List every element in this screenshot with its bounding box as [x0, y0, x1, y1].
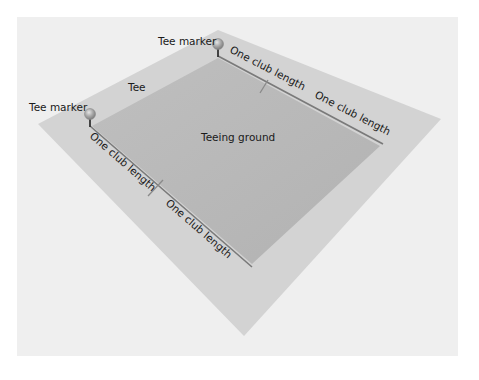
- tee-label: Tee: [127, 81, 146, 93]
- tee-marker-top-label: Tee marker: [157, 35, 217, 47]
- teeing-ground-diagram: Tee marker Tee marker Tee Teeing ground …: [0, 0, 479, 380]
- teeing-ground-label: Teeing ground: [200, 131, 275, 143]
- tee-marker-left-label: Tee marker: [28, 101, 88, 113]
